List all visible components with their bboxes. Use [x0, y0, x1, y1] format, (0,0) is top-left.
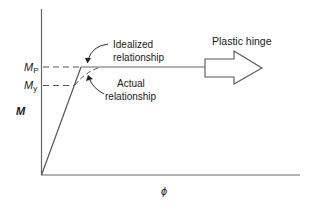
- idealized-label-line2: relationship: [113, 52, 165, 63]
- actual-label-line2: relationship: [105, 91, 157, 102]
- actual-pointer-arrow: [90, 80, 104, 94]
- mp-label: MP: [24, 61, 39, 75]
- my-label: My: [24, 79, 37, 93]
- actual-label-line1: Actual: [117, 78, 145, 89]
- idealized-label-line1: Idealized: [113, 39, 153, 50]
- plastic-hinge-label: Plastic hinge: [212, 35, 272, 47]
- x-axis-label: ϕ: [161, 185, 167, 197]
- idealized-arrowhead-icon: [85, 58, 91, 64]
- actual-curve: [75, 67, 100, 85]
- actual-arrowhead-icon: [86, 75, 93, 81]
- plastic-hinge-arrow-icon: [205, 51, 262, 84]
- idealized-elastic-line: [42, 67, 82, 175]
- idealized-pointer-arrow: [88, 44, 108, 60]
- y-axis-label: M: [16, 105, 26, 117]
- moment-curvature-diagram: MP My M ϕ Idealized relationship Actual …: [0, 0, 314, 207]
